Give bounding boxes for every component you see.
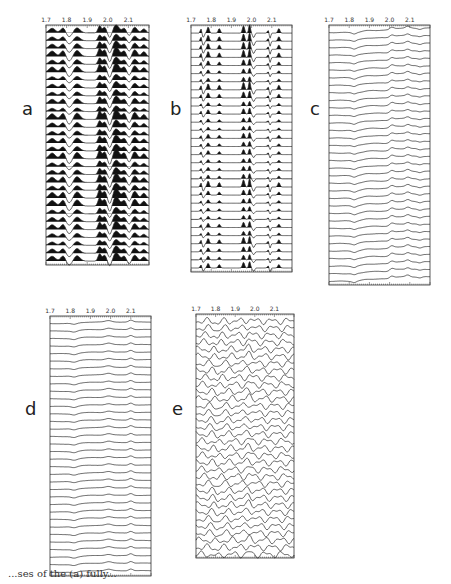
spectrum-trace bbox=[191, 198, 292, 206]
spectrum-trace bbox=[191, 237, 292, 249]
spectrum-trace bbox=[329, 237, 430, 245]
spectrum-trace bbox=[196, 360, 294, 367]
spectrum-trace bbox=[329, 230, 430, 237]
spectrum-trace bbox=[50, 396, 151, 400]
x-tick-label: 1.9 bbox=[227, 16, 237, 23]
spectrum-trace bbox=[196, 381, 294, 388]
spectrum-trace bbox=[196, 530, 294, 537]
spectrum-trace bbox=[329, 215, 430, 223]
x-tick-label: 1.7 bbox=[186, 16, 196, 23]
spectrum-trace bbox=[329, 184, 430, 192]
spectrum-trace bbox=[329, 245, 430, 253]
spectrum-trace bbox=[191, 246, 292, 255]
spectrum-trace bbox=[191, 215, 292, 222]
spectrum-trace bbox=[329, 64, 430, 71]
spectra-plot-d: 1.71.81.92.02.1 bbox=[38, 306, 163, 584]
spectrum-trace bbox=[329, 79, 430, 86]
spectrum-trace bbox=[191, 118, 292, 125]
spectrum-trace bbox=[50, 456, 151, 460]
spectrum-trace bbox=[196, 374, 294, 381]
spectrum-trace bbox=[329, 140, 430, 147]
plot-frame bbox=[50, 316, 151, 576]
spectrum-trace bbox=[50, 478, 151, 482]
spectrum-trace bbox=[191, 77, 292, 85]
spectrum-trace bbox=[50, 418, 151, 422]
spectrum-trace bbox=[196, 466, 294, 473]
spectrum-trace bbox=[50, 441, 151, 445]
spectrum-trace bbox=[196, 430, 294, 438]
spectrum-trace bbox=[196, 516, 294, 523]
x-tick-label: 2.1 bbox=[270, 305, 280, 312]
spectrum-trace bbox=[196, 452, 294, 459]
spectrum-trace bbox=[191, 81, 292, 95]
x-tick-label: 1.7 bbox=[324, 16, 334, 23]
plot-frame bbox=[329, 25, 430, 285]
spectrum-trace bbox=[191, 179, 292, 192]
spectrum-trace bbox=[196, 473, 294, 480]
spectrum-trace bbox=[191, 25, 292, 39]
spectrum-trace bbox=[50, 539, 151, 543]
spectrum-trace bbox=[329, 57, 430, 64]
spectrum-trace bbox=[191, 108, 292, 118]
x-tick-label: 1.8 bbox=[344, 16, 354, 23]
x-tick-label: 1.7 bbox=[191, 305, 201, 312]
spectrum-trace bbox=[329, 71, 430, 79]
spectrum-trace bbox=[196, 394, 294, 403]
panel-c: 1.71.81.92.02.1 bbox=[317, 15, 442, 295]
spectrum-trace bbox=[50, 524, 151, 528]
x-tick-label: 1.9 bbox=[365, 16, 375, 23]
spectrum-trace bbox=[196, 458, 294, 466]
x-tick-label: 1.9 bbox=[230, 305, 240, 312]
spectrum-trace bbox=[50, 328, 151, 332]
spectrum-trace bbox=[191, 142, 292, 150]
spectrum-trace bbox=[191, 149, 292, 158]
spectrum-trace bbox=[329, 26, 430, 34]
spectrum-trace bbox=[196, 332, 294, 339]
spectrum-trace bbox=[329, 132, 430, 139]
x-tick-label: 1.8 bbox=[211, 305, 221, 312]
spectrum-trace bbox=[329, 260, 430, 268]
spectrum-trace bbox=[196, 535, 294, 544]
spectrum-trace bbox=[196, 344, 294, 353]
spectrum-trace bbox=[191, 207, 292, 214]
spectrum-trace bbox=[329, 34, 430, 41]
spectrum-trace bbox=[329, 110, 430, 117]
x-tick-label: 2.0 bbox=[106, 307, 116, 314]
spectra-plot-b: 1.71.81.92.02.1 bbox=[179, 15, 304, 282]
spectrum-trace bbox=[329, 117, 430, 125]
x-tick-label: 2.0 bbox=[247, 16, 257, 23]
spectrum-trace bbox=[196, 366, 294, 374]
spectrum-trace bbox=[196, 351, 294, 360]
spectrum-trace bbox=[329, 49, 430, 56]
spectrum-trace bbox=[50, 388, 151, 392]
panel-label-e: e bbox=[172, 400, 183, 418]
x-tick-label: 1.8 bbox=[62, 16, 72, 23]
spectrum-trace bbox=[329, 268, 430, 275]
panel-label-d: d bbox=[25, 400, 36, 418]
spectrum-trace bbox=[50, 562, 151, 566]
spectrum-trace bbox=[196, 493, 294, 501]
x-tick-label: 1.9 bbox=[86, 307, 96, 314]
spectrum-trace bbox=[191, 231, 292, 238]
spectrum-trace bbox=[329, 41, 430, 49]
x-tick-label: 1.7 bbox=[45, 307, 55, 314]
spectrum-trace bbox=[50, 464, 151, 468]
spectrum-trace bbox=[191, 158, 292, 165]
spectrum-trace bbox=[50, 365, 151, 369]
spectrum-trace bbox=[196, 500, 294, 509]
spectrum-trace bbox=[196, 508, 294, 516]
spectrum-trace bbox=[329, 207, 430, 215]
panel-label-a: a bbox=[22, 100, 33, 118]
spectrum-trace bbox=[50, 471, 151, 475]
x-tick-label: 2.0 bbox=[103, 16, 113, 23]
spectrum-trace bbox=[191, 174, 292, 182]
spectrum-trace bbox=[50, 343, 151, 347]
x-tick-label: 1.8 bbox=[65, 307, 75, 314]
spectrum-trace bbox=[196, 544, 294, 551]
spectrum-trace bbox=[329, 155, 430, 162]
spectrum-trace bbox=[50, 531, 151, 535]
spectrum-trace bbox=[191, 59, 292, 70]
spectrum-trace bbox=[329, 223, 430, 230]
spectrum-trace bbox=[50, 433, 151, 437]
spectrum-trace bbox=[329, 192, 430, 200]
